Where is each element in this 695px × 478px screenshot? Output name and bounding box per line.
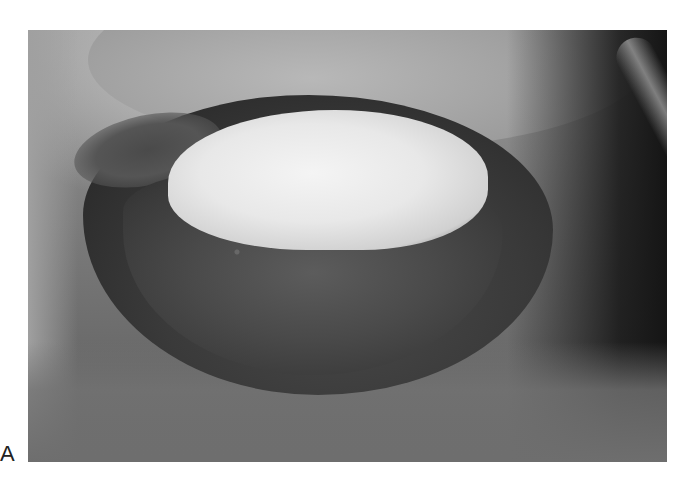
clinical-photo — [28, 30, 667, 462]
bright-central-area — [168, 110, 488, 250]
panel-label: A — [0, 443, 15, 465]
